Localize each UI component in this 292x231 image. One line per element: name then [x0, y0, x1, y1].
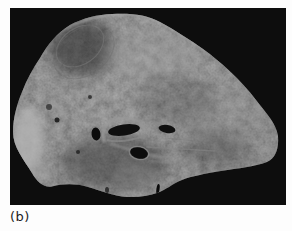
specimen-image [10, 8, 286, 205]
panel-label: (b) [10, 208, 30, 226]
specimen-photo [10, 8, 286, 205]
figure-panel: (b) [0, 0, 292, 231]
